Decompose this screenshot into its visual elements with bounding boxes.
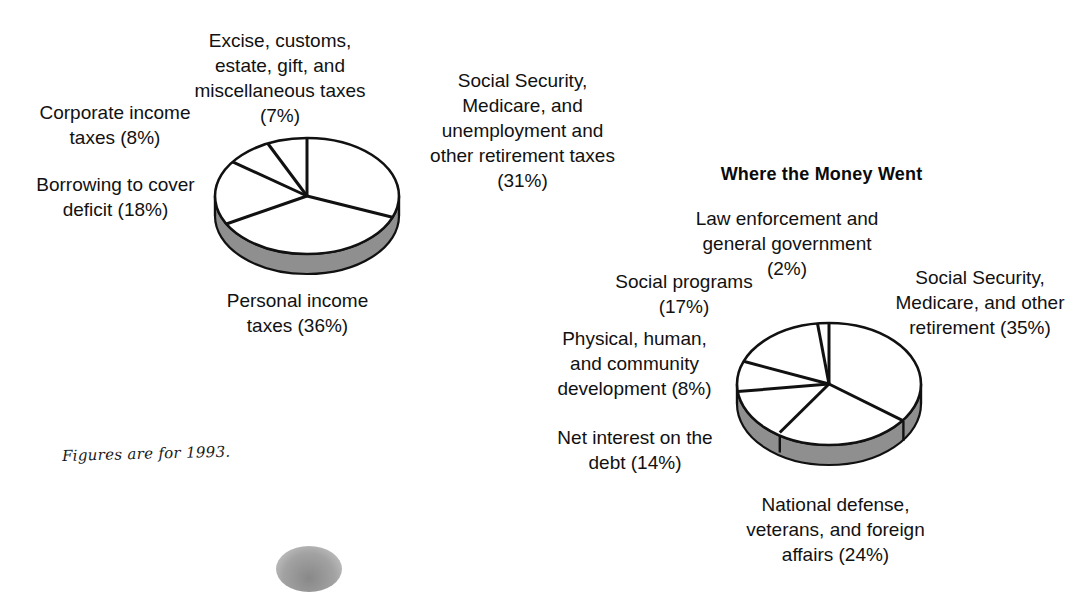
right-chart-title: Where the Money Went <box>699 163 944 185</box>
right-pie-chart <box>727 305 937 470</box>
right-chart-label-national-defense: National defense, veterans, and foreign … <box>728 492 943 567</box>
left-chart-label-social-security: Social Security, Medicare, and unemploym… <box>415 68 630 193</box>
page-smudge-artifact <box>276 546 342 592</box>
left-chart-label-corporate: Corporate income taxes (8%) <box>20 100 210 150</box>
left-chart-label-personal: Personal income taxes (36%) <box>190 288 405 338</box>
right-chart-label-net-interest: Net interest on the debt (14%) <box>540 425 730 475</box>
left-chart-label-borrowing: Borrowing to cover deficit (18%) <box>18 172 213 222</box>
right-chart-label-physical: Physical, human, and community developme… <box>537 326 732 401</box>
left-pie-chart <box>205 130 415 290</box>
footnote-figures-year: Figures are for 1993. <box>62 443 231 465</box>
